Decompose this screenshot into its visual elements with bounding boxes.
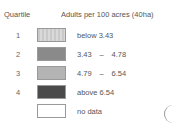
legend-row-no-data: no data (0, 104, 176, 120)
range-to: 6.54 (112, 69, 127, 78)
legend-header-quartile: Quartile (4, 10, 30, 19)
swatch-no-data (37, 104, 66, 118)
range-sep: – (92, 50, 112, 59)
swatch-q1 (37, 28, 66, 42)
range-label: 3.43–4.78 (77, 50, 126, 59)
range-label: below 3.43 (77, 31, 113, 40)
range-from: 3.43 (77, 50, 92, 59)
range-label: above 6.54 (77, 88, 114, 97)
quartile-number: 3 (16, 69, 20, 78)
range-from: 4.79 (77, 69, 92, 78)
swatch-q3 (37, 66, 66, 80)
range-label: no data (77, 107, 102, 116)
legend-row-q2: 2 3.43–4.78 (0, 47, 176, 63)
map-outline-edge (164, 105, 176, 123)
swatch-q2 (37, 47, 66, 61)
quartile-number: 1 (16, 31, 20, 40)
quartile-number: 4 (16, 88, 20, 97)
legend-row-q4: 4 above 6.54 (0, 85, 176, 101)
legend-row-q3: 3 4.79–6.54 (0, 66, 176, 82)
swatch-q4 (37, 85, 66, 99)
quartile-number: 2 (16, 50, 20, 59)
legend-row-q1: 1 below 3.43 (0, 28, 176, 44)
legend-header-density: Adults per 100 acres (40ha) (61, 10, 154, 19)
range-to: 4.78 (112, 50, 127, 59)
range-label: 4.79–6.54 (77, 69, 126, 78)
range-sep: – (92, 69, 112, 78)
